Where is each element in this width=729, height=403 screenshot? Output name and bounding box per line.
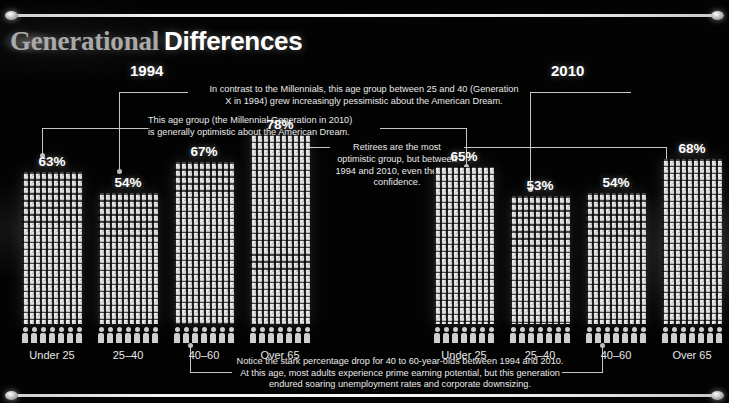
pictogram-bar	[98, 193, 158, 324]
person-icon	[640, 327, 646, 343]
person-icon	[546, 327, 552, 343]
bar-group-under-25[interactable]: 65%Under 25	[434, 167, 494, 343]
annotation-percentage-drop: Notice the stark percentage drop for 40 …	[229, 356, 571, 391]
top-divider-rule	[14, 14, 715, 17]
pictogram-figure-row	[174, 325, 234, 343]
pictogram-figure-row	[250, 325, 310, 343]
person-icon	[470, 327, 476, 343]
annotation-drop-line2: At this age, most adults experience prim…	[240, 368, 560, 378]
person-icon	[671, 327, 677, 343]
pictogram-figure-row	[434, 325, 494, 343]
person-icon	[125, 327, 131, 343]
bar-value-label: 78%	[250, 117, 310, 132]
pictogram-figure-row	[98, 325, 158, 343]
person-icon	[67, 327, 73, 343]
person-icon	[183, 327, 189, 343]
person-icon	[304, 327, 310, 343]
bar-chart-2010: 65%Under 2553%25–4054%40–6068%Over 65	[434, 68, 724, 343]
person-icon	[116, 327, 122, 343]
person-icon	[210, 327, 216, 343]
bar-category-label: Under 25	[427, 349, 501, 361]
bar-group-over-65[interactable]: 78%Over 65	[250, 135, 310, 343]
rule-end-dot-left	[5, 391, 18, 400]
bar-chart-1994: 63%Under 2554%25–4067%40–6078%Over 65	[22, 68, 312, 343]
pictogram-bar	[250, 135, 310, 324]
bar-group-under-25[interactable]: 63%Under 25	[22, 172, 82, 343]
person-icon	[689, 327, 695, 343]
person-icon	[707, 327, 713, 343]
person-icon	[201, 327, 207, 343]
person-icon	[286, 327, 292, 343]
person-icon	[259, 327, 265, 343]
person-icon	[192, 327, 198, 343]
person-icon	[716, 327, 722, 343]
person-icon	[586, 327, 592, 343]
person-icon	[22, 327, 28, 343]
pictogram-bar	[662, 159, 722, 324]
person-icon	[461, 327, 467, 343]
bar-value-label: 54%	[586, 175, 646, 190]
title-word-generational: Generational	[10, 26, 159, 56]
bar-group-over-65[interactable]: 68%Over 65	[662, 159, 722, 343]
person-icon	[228, 327, 234, 343]
bar-category-label: Over 65	[243, 349, 317, 361]
pictogram-bar	[434, 167, 494, 324]
pictogram-bar	[586, 193, 646, 324]
person-icon	[434, 327, 440, 343]
person-icon	[680, 327, 686, 343]
bar-value-label: 65%	[434, 149, 494, 164]
pictogram-figure-row	[662, 325, 722, 343]
title-word-differences: Differences	[164, 26, 302, 56]
bar-group-25-40[interactable]: 53%25–40	[510, 196, 570, 343]
pictogram-bar	[510, 196, 570, 324]
person-icon	[98, 327, 104, 343]
person-icon	[295, 327, 301, 343]
person-icon	[622, 327, 628, 343]
pictogram-bar	[174, 162, 234, 324]
person-icon	[479, 327, 485, 343]
person-icon	[143, 327, 149, 343]
page-title: GenerationalDifferences	[10, 26, 302, 57]
person-icon	[174, 327, 180, 343]
person-icon	[152, 327, 158, 343]
person-icon	[452, 327, 458, 343]
person-icon	[698, 327, 704, 343]
person-icon	[76, 327, 82, 343]
person-icon	[604, 327, 610, 343]
leader-drop-left-horizontal	[190, 372, 232, 373]
person-icon	[31, 327, 37, 343]
person-icon	[519, 327, 525, 343]
person-icon	[443, 327, 449, 343]
person-icon	[49, 327, 55, 343]
person-icon	[250, 327, 256, 343]
person-icon	[107, 327, 113, 343]
person-icon	[537, 327, 543, 343]
annotation-drop-line3: endured soaring unemployment rates and c…	[269, 379, 531, 389]
person-icon	[595, 327, 601, 343]
person-icon	[631, 327, 637, 343]
person-icon	[277, 327, 283, 343]
rule-end-dot-left	[5, 11, 18, 20]
bar-value-label: 63%	[22, 154, 82, 169]
person-icon	[40, 327, 46, 343]
person-icon	[510, 327, 516, 343]
pictogram-figure-row	[22, 325, 82, 343]
bar-group-40-60[interactable]: 67%40–60	[174, 162, 234, 343]
bottom-divider-rule	[14, 394, 715, 397]
bar-value-label: 53%	[510, 178, 570, 193]
rule-end-dot-right	[711, 391, 724, 400]
bar-value-label: 68%	[662, 141, 722, 156]
rule-end-dot-right	[711, 11, 724, 20]
person-icon	[219, 327, 225, 343]
pictogram-figure-row	[510, 325, 570, 343]
person-icon	[134, 327, 140, 343]
person-icon	[564, 327, 570, 343]
person-icon	[555, 327, 561, 343]
bar-group-40-60[interactable]: 54%40–60	[586, 193, 646, 343]
bar-group-25-40[interactable]: 54%25–40	[98, 193, 158, 343]
pictogram-bar	[22, 172, 82, 324]
bar-category-label: 25–40	[91, 349, 165, 361]
pictogram-figure-row	[586, 325, 646, 343]
bar-category-label: 25–40	[503, 349, 577, 361]
bar-category-label: 40–60	[167, 349, 241, 361]
